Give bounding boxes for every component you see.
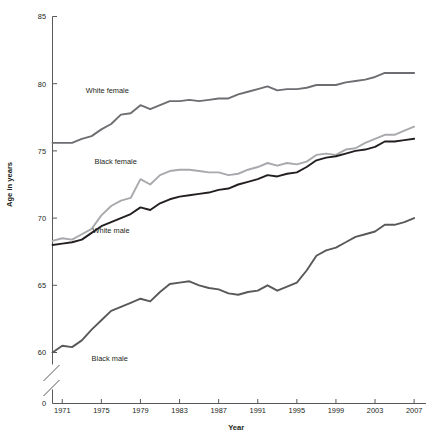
axis-break-marker [44,365,60,396]
axis-break-slash-upper [44,365,60,381]
x-tick-label: 1971 [54,406,70,415]
y-tick-label: 85 [38,12,46,21]
x-tick-label: 1979 [132,406,148,415]
y-axis: 8580757065600 [38,12,57,408]
chart-canvas: 8580757065600 19711975197919831987199119… [0,0,437,438]
y-tick-label: 75 [38,147,46,156]
x-tick-label: 1995 [289,406,305,415]
series-lines [53,73,415,353]
series-inline-labels: White femaleBlack femaleWhite maleBlack … [86,86,137,362]
x-tick-label: 1991 [250,406,266,415]
y-tick-label: 0 [42,399,46,408]
x-tick-label: 1975 [93,406,109,415]
x-tick-label: 1987 [210,406,226,415]
life-expectancy-line-chart: 8580757065600 19711975197919831987199119… [0,0,437,438]
y-tick-label: 65 [38,281,46,290]
axis-titles: YearAge in years [5,162,244,432]
series-label-white-male: White male [93,226,130,235]
series-line-black-male [53,218,415,352]
x-tick-label: 2003 [367,406,383,415]
series-label-black-female: Black female [95,157,137,166]
y-tick-label: 70 [38,214,46,223]
x-tick-label: 1999 [328,406,344,415]
y-tick-label: 60 [38,348,46,357]
x-tick-label: 2007 [406,406,422,415]
x-tick-label: 1983 [171,406,187,415]
axis-break-slash-lower [44,380,60,396]
x-axis-title: Year [228,423,244,432]
y-tick-label: 80 [38,80,46,89]
x-axis: 1971197519791983198719911995199920032007 [53,399,427,415]
y-axis-title: Age in years [5,162,14,207]
series-line-white-female [53,73,415,143]
series-label-black-male: Black male [92,354,128,363]
series-label-white-female: White female [86,86,129,95]
